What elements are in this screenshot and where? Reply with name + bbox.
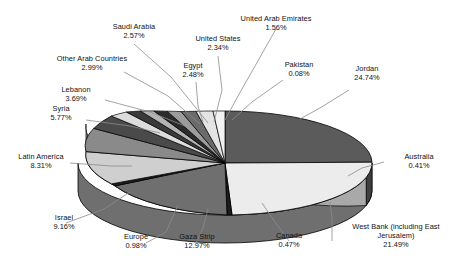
label-pakistan: Pakistan 0.08% — [269, 60, 329, 78]
label-west-bank-value: 21.49% — [344, 240, 448, 249]
label-other-arab-countries: Other Arab Countries 2.99% — [32, 54, 152, 72]
label-united-arab-emirates-name: United Arab Emirates — [219, 14, 333, 23]
label-israel-value: 9.16% — [36, 222, 92, 231]
label-canada: Canada 0.47% — [260, 231, 318, 249]
label-canada-value: 0.47% — [260, 240, 318, 249]
label-egypt-value: 2.48% — [163, 70, 223, 79]
label-united-states-value: 2.34% — [178, 43, 258, 52]
label-lebanon-name: Lebanon — [44, 85, 108, 94]
label-australia-value: 0.41% — [388, 161, 450, 170]
label-syria-name: Syria — [33, 104, 89, 113]
label-saudi-arabia: Saudi Arabia 2.57% — [94, 22, 174, 40]
label-europe: Europe 0.98% — [108, 232, 164, 250]
label-jordan-value: 24.74% — [337, 73, 397, 82]
pie-top-face — [85, 111, 372, 215]
label-syria-value: 5.77% — [33, 113, 89, 122]
label-lebanon: Lebanon 3.69% — [44, 85, 108, 103]
label-united-arab-emirates-value: 1.56% — [219, 23, 333, 32]
label-syria: Syria 5.77% — [33, 104, 89, 122]
label-latin-america-value: 8.31% — [6, 161, 76, 170]
label-united-arab-emirates: United Arab Emirates 1.56% — [219, 14, 333, 32]
label-egypt: Egypt 2.48% — [163, 61, 223, 79]
label-other-arab-countries-name: Other Arab Countries — [32, 54, 152, 63]
label-west-bank-name: West Bank (including East Jerusalem) — [344, 222, 448, 240]
label-united-states: United States 2.34% — [178, 34, 258, 52]
label-gaza-strip-value: 12.97% — [166, 241, 228, 250]
label-gaza-strip-name: Gaza Strip — [166, 232, 228, 241]
label-latin-america-name: Latin America — [6, 152, 76, 161]
label-europe-value: 0.98% — [108, 241, 164, 250]
label-saudi-arabia-value: 2.57% — [94, 31, 174, 40]
label-pakistan-name: Pakistan — [269, 60, 329, 69]
label-pakistan-value: 0.08% — [269, 69, 329, 78]
label-jordan: Jordan 24.74% — [337, 64, 397, 82]
label-lebanon-value: 3.69% — [44, 94, 108, 103]
pie-3d-body — [78, 111, 372, 243]
pie-slice-jordan — [225, 111, 372, 163]
leader-line-jordan — [300, 90, 349, 119]
label-united-states-name: United States — [178, 34, 258, 43]
label-gaza-strip: Gaza Strip 12.97% — [166, 232, 228, 250]
label-egypt-name: Egypt — [163, 61, 223, 70]
label-israel-name: Israel — [36, 213, 92, 222]
label-jordan-name: Jordan — [337, 64, 397, 73]
label-europe-name: Europe — [108, 232, 164, 241]
label-australia-name: Australia — [388, 152, 450, 161]
label-saudi-arabia-name: Saudi Arabia — [94, 22, 174, 31]
pie-chart-figure: Saudi Arabia 2.57% United States 2.34% U… — [0, 0, 462, 273]
label-israel: Israel 9.16% — [36, 213, 92, 231]
label-other-arab-countries-value: 2.99% — [32, 63, 152, 72]
label-australia: Australia 0.41% — [388, 152, 450, 170]
label-canada-name: Canada — [260, 231, 318, 240]
label-west-bank: West Bank (including East Jerusalem) 21.… — [344, 222, 448, 250]
label-latin-america: Latin America 8.31% — [6, 152, 76, 170]
